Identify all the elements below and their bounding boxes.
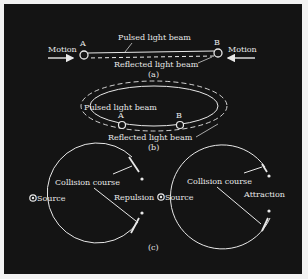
motion-left-label: Motion xyxy=(48,45,77,54)
point-a-circle-icon xyxy=(119,122,126,129)
pulsed-beam-line xyxy=(88,51,214,53)
panel-c: Source Collision course Repulsion Source xyxy=(30,143,285,252)
pulsed-beam-label-b: Pulsed light beam xyxy=(84,103,157,112)
motion-right-label: Motion xyxy=(228,45,257,54)
figure-panel: Motion Motion A B Pulsed light beam Refl… xyxy=(4,4,302,274)
repulsion-label: Repulsion xyxy=(114,193,154,202)
reflected-beam-line xyxy=(88,56,214,58)
panel-a: Motion Motion A B Pulsed light beam Refl… xyxy=(48,33,257,79)
source-label-left: Source xyxy=(37,194,66,203)
particle-dot xyxy=(140,211,143,214)
point-b-label: B xyxy=(214,38,220,47)
point-b-b-label: B xyxy=(176,111,182,120)
panel-c-right: Source Collision course Attraction xyxy=(158,145,285,249)
caption-b: (b) xyxy=(148,143,159,152)
point-b-circle-icon xyxy=(214,49,222,57)
point-b-a-label: A xyxy=(117,111,124,120)
pulsed-beam-label: Pulsed light beam xyxy=(118,33,191,42)
particle-dot xyxy=(267,174,270,177)
panel-b: A B Pulsed light beam Reflected light be… xyxy=(81,81,227,152)
collision-label-left: Collision course xyxy=(55,178,120,187)
particle-dot xyxy=(267,209,270,212)
source-label-right: Source xyxy=(165,193,194,202)
figure-canvas: Motion Motion A B Pulsed light beam Refl… xyxy=(0,0,308,279)
diagram-svg: Motion Motion A B Pulsed light beam Refl… xyxy=(4,4,302,274)
point-a-label: A xyxy=(79,39,86,48)
caption-c: (c) xyxy=(148,243,159,252)
reflected-beam-label: Reflected light beam xyxy=(114,60,199,69)
panel-c-left: Source Collision course Repulsion xyxy=(30,143,154,243)
attraction-label: Attraction xyxy=(243,190,285,199)
collision-label-right: Collision course xyxy=(187,177,252,186)
reflected-beam-label-b: Reflected light beam xyxy=(108,133,193,142)
point-b-circle-icon xyxy=(177,122,184,129)
point-a-circle-icon xyxy=(80,51,88,59)
particle-dot xyxy=(140,177,143,180)
caption-a: (a) xyxy=(148,70,159,79)
